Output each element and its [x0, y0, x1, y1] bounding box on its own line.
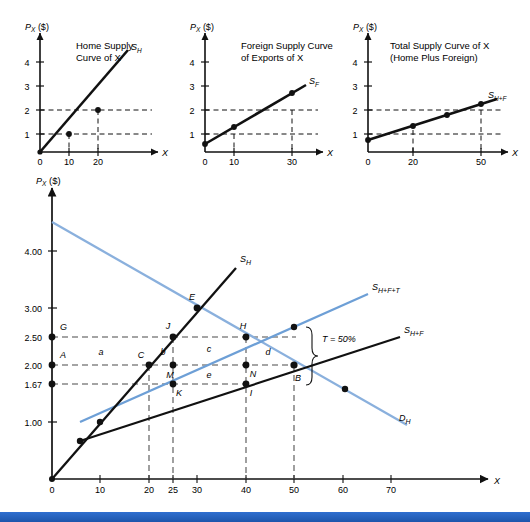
panel3-intercept-point [365, 137, 371, 143]
panel1-y-ticks: 1 2 3 4 [24, 58, 44, 140]
panel3-ytick-3: 3 [352, 82, 357, 92]
point-C [146, 362, 153, 369]
panel2-y-axis-label: PX ($) [190, 22, 214, 33]
point-K [170, 381, 177, 388]
panel3-y-ticks: 1 2 3 4 [352, 58, 372, 140]
main-xtick-25: 25 [168, 485, 178, 495]
panel3-ytick-1: 1 [352, 130, 357, 140]
panel3-title-line1: Total Supply Curve of X [390, 40, 490, 51]
point-label-C: C [138, 350, 145, 360]
tariff-bracket [306, 327, 318, 385]
panel3-point-35 [444, 112, 450, 118]
main-curve-SHFT [80, 294, 368, 422]
point-label-B: B [295, 373, 301, 383]
main-labeled-points: E J H C M N B K I [138, 292, 301, 398]
main-point-SHF-start [77, 438, 83, 444]
panel2-point-10-1 [231, 124, 237, 130]
main-xtick-0: 0 [49, 485, 54, 495]
panel2-guides [205, 110, 318, 152]
axis-point-A [49, 362, 56, 369]
price-marker-label-A: A [59, 350, 66, 360]
main-xtick-50: 50 [289, 485, 299, 495]
panel2-intercept-point [202, 141, 208, 147]
panel-total-supply: PX ($) X 1 2 3 4 0 20 50 [352, 22, 519, 167]
panel-home-supply: PX ($) X 1 2 3 4 0 10 20 [24, 22, 169, 167]
point-B [290, 361, 297, 368]
panel3-x-axis-label: X [511, 148, 519, 158]
area-label-b: b [160, 347, 165, 357]
price-marker-label-G: G [60, 322, 67, 332]
point-E [194, 305, 201, 312]
point-N [243, 362, 250, 369]
main-x-ticks: 0 10 20 25 30 40 50 60 70 [49, 475, 396, 495]
panel3-title-line2: (Home Plus Foreign) [390, 52, 478, 63]
panel1-origin-point [37, 149, 42, 154]
panel1-xtick-20: 20 [93, 157, 103, 167]
panel2-point-30-2 [289, 90, 295, 96]
panel1-title-line2: Curve of X [76, 52, 122, 63]
tariff-label: T = 50% [322, 334, 356, 344]
panel1-y-axis-label: PX ($) [25, 22, 49, 33]
economics-figure: PX ($) X 1 2 3 4 0 10 20 [0, 0, 530, 522]
panel2-ytick-2: 2 [189, 106, 194, 116]
panel3-point-20 [410, 123, 416, 129]
main-xtick-20: 20 [144, 485, 154, 495]
panel3-xtick-20: 20 [408, 157, 418, 167]
point-label-J: J [165, 321, 171, 331]
panel2-x-ticks: 0 10 30 [202, 148, 297, 167]
panel2-ytick-1: 1 [189, 130, 194, 140]
main-y-axis-label: PX ($) [36, 175, 61, 187]
point-J [170, 334, 177, 341]
panel2-ytick-3: 3 [189, 82, 194, 92]
panel3-guides [368, 110, 502, 152]
figure-root: PX ($) X 1 2 3 4 0 10 20 [0, 0, 530, 522]
panel1-ytick-2: 2 [24, 106, 29, 116]
panel3-y-axis-label: PX ($) [353, 22, 377, 33]
panel1-ytick-1: 1 [24, 130, 29, 140]
main-xtick-30: 30 [192, 485, 202, 495]
point-label-N: N [250, 369, 257, 379]
panel1-x-axis-label: X [161, 148, 169, 158]
panel1-ytick-3: 3 [24, 82, 29, 92]
main-ytick-4-00: 4.00 [24, 247, 42, 257]
main-ytick-1-00: 1.00 [24, 418, 42, 428]
axis-point-G [49, 334, 56, 341]
main-ytick-3-00: 3.00 [24, 304, 42, 314]
panel2-ytick-4: 4 [189, 58, 194, 68]
main-curve-label-SHF: SH+F [404, 325, 424, 337]
panel3-curve-label-SHF: SH+F [488, 90, 508, 102]
axis-point-1-67 [49, 381, 56, 388]
main-origin-point [49, 476, 55, 482]
point-I [243, 381, 250, 388]
panel1-title-line1: Home Supply [76, 40, 133, 51]
point-label-I: I [250, 388, 253, 398]
panel2-xtick-30: 30 [287, 157, 297, 167]
panel3-xtick-50: 50 [476, 157, 486, 167]
area-label-e: e [206, 370, 211, 380]
main-curve-label-DH: DH [399, 413, 412, 425]
panel3-x-ticks: 0 20 50 [365, 148, 486, 167]
panel1-xtick-10: 10 [64, 157, 74, 167]
panel3-ytick-4: 4 [352, 58, 357, 68]
panel2-xtick-10: 10 [229, 157, 239, 167]
area-label-d: d [265, 347, 271, 357]
panel-foreign-supply: PX ($) X 1 2 3 4 0 10 30 [189, 22, 334, 167]
panel3-xtick-0: 0 [365, 157, 370, 167]
panel1-point-20-2 [95, 107, 101, 113]
panel2-y-ticks: 1 2 3 4 [189, 58, 209, 140]
panel1-x-ticks: 0 10 20 [37, 148, 103, 167]
main-xtick-10: 10 [95, 485, 105, 495]
panel1-ytick-4: 4 [24, 58, 29, 68]
panel2-x-axis-label: X [326, 148, 334, 158]
main-xtick-70: 70 [386, 485, 396, 495]
panel2-xtick-0: 0 [202, 157, 207, 167]
main-x-axis-label: X [493, 476, 501, 486]
main-curve-DH [52, 222, 407, 425]
main-chart: PX ($) X 1.00 1.67 2.00 2.50 3.00 4.00 0… [24, 175, 501, 495]
panel3-point-50 [478, 101, 484, 107]
main-xtick-40: 40 [241, 485, 251, 495]
main-curve-label-SH: SH [240, 254, 252, 266]
panel1-xtick-0: 0 [37, 157, 42, 167]
main-xtick-60: 60 [338, 485, 348, 495]
main-curve-label-SHFT: SH+F+T [372, 282, 401, 294]
